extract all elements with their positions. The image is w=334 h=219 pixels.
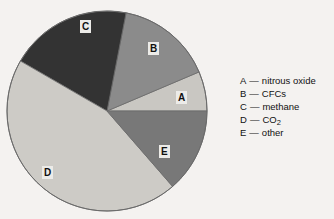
- legend-name-a: nitrous oxide: [262, 74, 316, 87]
- legend-key-c: C: [240, 100, 247, 113]
- pie-slice-label-b: B: [148, 42, 159, 55]
- pie-slice-label-c: C: [80, 20, 91, 33]
- pie-slice-label-e: E: [159, 145, 170, 158]
- legend-name-b: CFCs: [262, 87, 286, 100]
- legend-dash: —: [247, 100, 263, 113]
- legend-row-d: D—CO2: [240, 113, 334, 126]
- legend-dash: —: [247, 113, 263, 126]
- legend-row-a: A—nitrous oxide: [240, 74, 334, 87]
- pie-slice-label-d: D: [42, 166, 53, 179]
- pie-slices-group: [7, 11, 207, 211]
- pie-chart-figure: ABCDE A—nitrous oxideB—CFCsC—methaneD—CO…: [0, 0, 334, 219]
- legend-row-e: E—other: [240, 126, 334, 139]
- chart-legend: A—nitrous oxideB—CFCsC—methaneD—CO2E—oth…: [240, 74, 334, 139]
- legend-row-b: B—CFCs: [240, 87, 334, 100]
- legend-dash: —: [246, 87, 262, 100]
- legend-name-c: methane: [262, 100, 299, 113]
- legend-key-d: D: [240, 113, 247, 126]
- pie-slice-label-a: A: [176, 91, 187, 104]
- legend-row-c: C—methane: [240, 100, 334, 113]
- legend-dash: —: [246, 74, 262, 87]
- legend-dash: —: [246, 126, 262, 139]
- legend-name-e: other: [262, 126, 284, 139]
